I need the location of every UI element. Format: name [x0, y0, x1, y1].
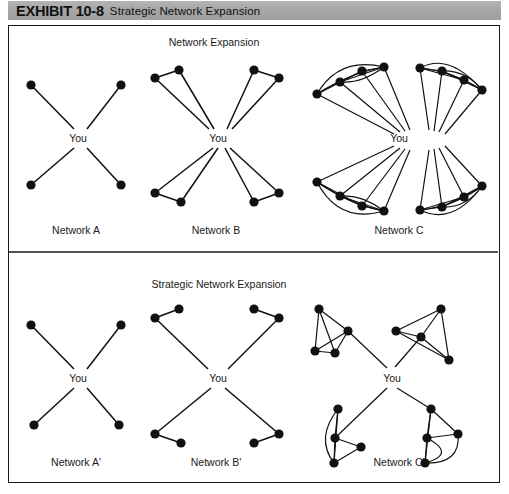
- contact-node: [444, 355, 453, 364]
- cluster-top-left: [312, 62, 410, 134]
- exhibit-title: Strategic Network Expansion: [110, 5, 260, 17]
- contact-node: [249, 304, 258, 313]
- contact-node: [274, 313, 283, 322]
- contact-node: [436, 304, 445, 313]
- network-b: You Network B: [150, 65, 283, 236]
- ego-label-c: You: [390, 132, 408, 144]
- contact-node: [150, 73, 159, 82]
- exhibit-header-band: EXHIBIT 10-8 Strategic Network Expansion: [8, 1, 501, 20]
- cluster-top-right: [415, 63, 486, 134]
- contact-node: [174, 65, 183, 74]
- contact-node: [391, 326, 400, 335]
- contact-node: [274, 188, 283, 197]
- cluster-prime-top-left: [310, 304, 387, 368]
- contact-node: [310, 346, 319, 355]
- contact-node: [150, 313, 159, 322]
- contact-node: [26, 80, 35, 89]
- contact-node: [29, 420, 38, 429]
- contact-node: [116, 320, 125, 329]
- contact-node: [330, 348, 339, 357]
- contact-node: [174, 304, 183, 313]
- ego-label-a: You: [69, 132, 87, 144]
- contact-node: [176, 438, 185, 447]
- network-c-prime: You Network C': [310, 304, 462, 468]
- ego-label-c-prime: You: [383, 372, 401, 384]
- contact-node: [477, 181, 486, 190]
- contact-node: [379, 62, 388, 71]
- figure-frame: Network Expansion You Network A: [8, 25, 500, 483]
- ego-label-b: You: [209, 132, 227, 144]
- contact-node: [150, 188, 159, 197]
- contact-node: [343, 326, 352, 335]
- network-c: You Network C: [312, 62, 486, 236]
- contact-node: [453, 429, 462, 438]
- network-a: You Network A: [26, 80, 125, 236]
- network-b-prime-label: Network B': [191, 456, 241, 468]
- contact-node: [426, 404, 435, 413]
- contact-node: [356, 442, 365, 451]
- contact-node: [335, 77, 344, 86]
- contact-node: [477, 85, 486, 94]
- cluster-prime-top-right: [391, 304, 453, 367]
- contact-node: [116, 80, 125, 89]
- contact-node: [26, 320, 35, 329]
- contact-node: [150, 429, 159, 438]
- network-a-prime: You Network A': [26, 320, 125, 468]
- ego-label-a-prime: You: [69, 372, 87, 384]
- contact-node: [335, 191, 344, 200]
- contact-node: [416, 332, 425, 341]
- contact-node: [274, 429, 283, 438]
- network-diagram: Network Expansion You Network A: [9, 26, 498, 481]
- contact-node: [312, 89, 321, 98]
- contact-node: [357, 66, 366, 75]
- contact-node: [274, 73, 283, 82]
- contact-node: [422, 433, 431, 442]
- network-a-prime-label: Network A': [51, 456, 101, 468]
- contact-node: [249, 65, 258, 74]
- contact-node: [437, 66, 446, 75]
- contact-node: [415, 205, 424, 214]
- contact-node: [330, 433, 339, 442]
- contact-node: [314, 304, 323, 313]
- network-b-prime: You Network B': [150, 304, 283, 468]
- contact-node: [459, 192, 468, 201]
- exhibit-number: EXHIBIT 10-8: [16, 3, 104, 19]
- contact-node: [459, 75, 468, 84]
- contact-node: [116, 180, 125, 189]
- contact-node: [333, 404, 342, 413]
- contact-node: [357, 201, 366, 210]
- contact-node: [312, 177, 321, 186]
- contact-node: [437, 202, 446, 211]
- network-c-prime-label: Network C': [373, 456, 424, 468]
- contact-node: [249, 197, 258, 206]
- contact-node: [249, 438, 258, 447]
- contact-node: [415, 63, 424, 72]
- contact-node: [26, 180, 35, 189]
- contact-node: [114, 420, 123, 429]
- network-a-label: Network A: [52, 224, 100, 236]
- contact-node: [176, 197, 185, 206]
- contact-node: [379, 206, 388, 215]
- cluster-bottom-right: [415, 146, 486, 215]
- bottom-panel-title: Strategic Network Expansion: [152, 278, 287, 290]
- contact-node: [329, 458, 338, 467]
- network-c-label: Network C: [374, 224, 423, 236]
- cluster-bottom-left: [312, 146, 410, 216]
- ego-label-b-prime: You: [209, 372, 227, 384]
- network-b-label: Network B: [192, 224, 240, 236]
- top-panel-title: Network Expansion: [169, 36, 260, 48]
